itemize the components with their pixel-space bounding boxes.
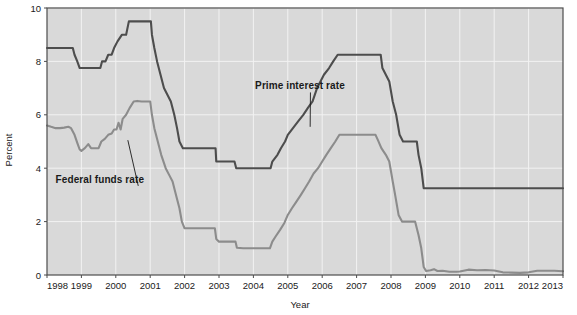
- chart-canvas: 1998199920002001200220032004200520062007…: [0, 0, 577, 315]
- x-tick-label: 2002: [174, 280, 195, 291]
- plot-background: [47, 8, 563, 275]
- y-tick-label: 0: [36, 270, 41, 281]
- annotation-label-prime-interest-rate: Prime interest rate: [255, 80, 345, 91]
- annotation-label-federal-funds-rate: Federal funds rate: [56, 174, 145, 185]
- y-tick-label: 10: [30, 3, 41, 14]
- x-tick-label: 2004: [243, 280, 264, 291]
- x-tick-label: 2010: [449, 280, 470, 291]
- x-tick-label: 1999: [71, 280, 92, 291]
- x-tick-label: 2013: [542, 280, 563, 291]
- y-tick-label: 2: [36, 216, 41, 227]
- y-tick-label: 8: [36, 56, 41, 67]
- interest-rate-chart-figure: 1998199920002001200220032004200520062007…: [0, 0, 577, 315]
- x-tick-label: 1998: [47, 280, 68, 291]
- x-tick-label: 2003: [208, 280, 229, 291]
- x-tick-label: 2011: [484, 280, 504, 291]
- x-tick-label: 2005: [277, 280, 298, 291]
- x-tick-label: 2012: [518, 280, 539, 291]
- x-tick-label: 2008: [380, 280, 401, 291]
- x-tick-label: 2007: [346, 280, 367, 291]
- x-tick-label: 2000: [105, 280, 126, 291]
- y-tick-label: 4: [36, 163, 41, 174]
- y-tick-label: 6: [36, 109, 41, 120]
- x-tick-label: 2009: [415, 280, 436, 291]
- x-tick-label: 2006: [312, 280, 333, 291]
- x-tick-label: 2001: [140, 280, 161, 291]
- x-axis-title: Year: [290, 299, 309, 310]
- plot-area-background: [47, 8, 563, 275]
- y-axis-title: Percent: [3, 133, 14, 166]
